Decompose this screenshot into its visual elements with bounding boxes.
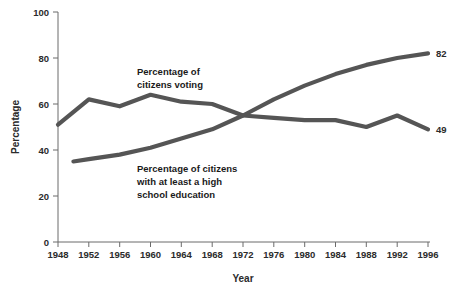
- endpoint-label-education: 82: [436, 48, 447, 59]
- voting-annotation-line-2: citizens voting: [137, 79, 203, 90]
- y-axis-title: Percentage: [10, 100, 21, 154]
- y-tick-label-60: 60: [38, 99, 49, 110]
- voting-annotation-line-1: Percentage of: [137, 66, 201, 77]
- x-tick-label-1992: 1992: [387, 249, 408, 260]
- x-tick-label-1952: 1952: [78, 249, 99, 260]
- y-tick-label-0: 0: [44, 237, 49, 248]
- x-tick-label-1960: 1960: [140, 249, 161, 260]
- education-annotation-line-2: with at least a high: [136, 176, 222, 187]
- x-tick-label-1972: 1972: [232, 249, 253, 260]
- education-annotation-line-1: Percentage of citizens: [137, 163, 237, 174]
- x-tick-label-1956: 1956: [109, 249, 130, 260]
- education-annotation-line-3: school education: [137, 189, 215, 200]
- x-tick-label-1964: 1964: [171, 249, 193, 260]
- x-tick-label-1984: 1984: [325, 249, 347, 260]
- y-tick-label-20: 20: [38, 191, 49, 202]
- x-axis-title: Year: [232, 273, 253, 284]
- x-tick-label-1976: 1976: [263, 249, 284, 260]
- x-tick-label-1968: 1968: [202, 249, 223, 260]
- x-tick-label-1988: 1988: [356, 249, 377, 260]
- x-tick-label-1980: 1980: [294, 249, 315, 260]
- line-chart-figure: 100 80 60 40 20 0 1948 1952 1956 1960 19…: [0, 0, 474, 296]
- y-tick-label-40: 40: [38, 145, 49, 156]
- y-tick-label-100: 100: [33, 7, 49, 18]
- endpoint-label-voting: 49: [436, 124, 447, 135]
- x-tick-label-1948: 1948: [47, 249, 68, 260]
- y-tick-label-80: 80: [38, 53, 49, 64]
- x-tick-label-1996: 1996: [417, 249, 438, 260]
